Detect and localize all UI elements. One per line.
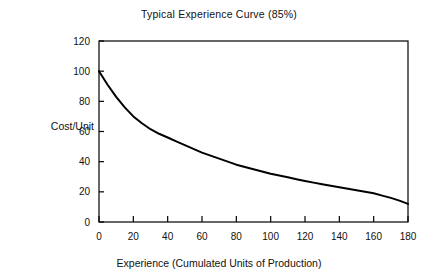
y-tick-label: 80 xyxy=(79,96,91,107)
x-tick-label: 40 xyxy=(162,231,174,242)
plot-border xyxy=(99,41,408,222)
x-tick-label: 60 xyxy=(196,231,208,242)
x-tick-label: 180 xyxy=(400,231,417,242)
y-tick-label: 100 xyxy=(73,66,90,77)
x-tick-label: 100 xyxy=(262,231,279,242)
x-tick-label: 140 xyxy=(331,231,348,242)
y-tick-label: 20 xyxy=(79,186,91,197)
x-tick-label: 80 xyxy=(231,231,243,242)
x-tick-label: 20 xyxy=(128,231,140,242)
x-tick-label: 0 xyxy=(96,231,102,242)
plot-area: 020406080100120 020406080100120140160180 xyxy=(0,0,438,278)
chart-figure: Typical Experience Curve (85%) Cost/Unit… xyxy=(0,0,438,278)
x-tick-label: 120 xyxy=(297,231,314,242)
y-tick-label: 40 xyxy=(79,156,91,167)
x-tick-label-group: 020406080100120140160180 xyxy=(96,231,417,242)
x-tick-label: 160 xyxy=(365,231,382,242)
y-tick-label: 120 xyxy=(73,36,90,47)
y-tick-label: 60 xyxy=(79,126,91,137)
plot-frame xyxy=(99,41,408,222)
experience-curve-line xyxy=(99,71,408,204)
y-tick-group xyxy=(99,41,104,222)
x-tick-group xyxy=(99,216,408,222)
y-tick-label: 0 xyxy=(84,217,90,228)
y-tick-label-group: 020406080100120 xyxy=(73,36,90,228)
